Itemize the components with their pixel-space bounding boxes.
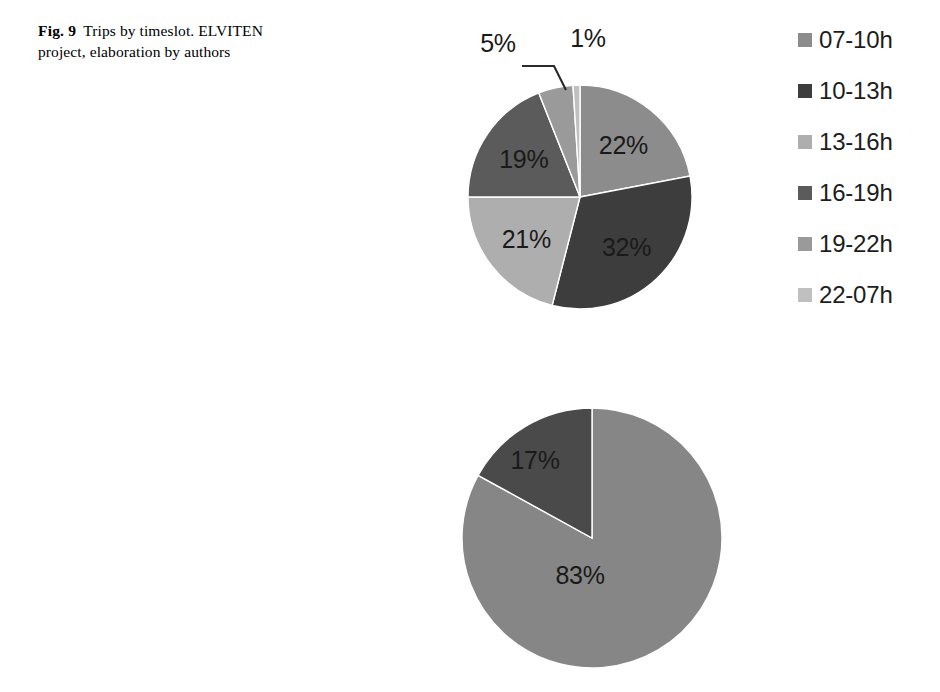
legend-swatch-icon (798, 288, 812, 302)
pie-chart-9-svg (467, 84, 693, 310)
legend-swatch-icon (798, 237, 812, 251)
figure-9-caption: Fig. 9Trips by timeslot. ELVITEN project… (38, 20, 298, 62)
legend-item-label: 16-19h (819, 181, 893, 205)
pie-slice-value-label: 22% (599, 130, 648, 159)
figure-9-number: Fig. 9 (38, 22, 76, 39)
figure-10: Fig. 10Trips by day of the week. ELVITEN… (0, 370, 940, 692)
legend-item[interactable]: 07-10h (798, 24, 893, 56)
pie-chart-trips-by-timeslot (467, 84, 693, 310)
document-page: Fig. 9Trips by timeslot. ELVITEN project… (0, 0, 940, 692)
legend-item-label: 07-10h (819, 28, 893, 52)
legend-item[interactable]: 19-22h (798, 228, 893, 260)
legend-swatch-icon (798, 186, 812, 200)
pie-slice-value-label: 32% (602, 232, 651, 261)
legend-item[interactable]: 13-16h (798, 126, 893, 158)
legend-item[interactable]: 10-13h (798, 75, 893, 107)
legend-item-label: 13-16h (819, 130, 893, 154)
pie-chart-10-svg (461, 407, 723, 669)
legend-swatch-icon (798, 33, 812, 47)
legend-swatch-icon (798, 84, 812, 98)
legend-item-label: 22-07h (819, 283, 893, 307)
pie-slice-value-label: 83% (555, 561, 604, 590)
legend-item[interactable]: 22-07h (798, 279, 893, 311)
pie-slice-value-label: 17% (510, 446, 559, 475)
pie-slice-value-label: 1% (570, 24, 606, 53)
pie-slice-value-label: 19% (499, 144, 548, 173)
legend-item[interactable]: 16-19h (798, 177, 893, 209)
figure-9: Fig. 9Trips by timeslot. ELVITEN project… (0, 0, 940, 370)
legend-item-label: 19-22h (819, 232, 893, 256)
legend-item-label: 10-13h (819, 79, 893, 103)
pie-slice-value-label: 21% (502, 224, 551, 253)
pie-chart-trips-by-day-of-week (461, 407, 723, 669)
leader-line-5-percent (520, 48, 590, 98)
pie-chart-9-legend: 07-10h10-13h13-16h16-19h19-22h22-07h (798, 24, 893, 330)
legend-swatch-icon (798, 135, 812, 149)
pie-slice-value-label: 5% (480, 29, 516, 58)
